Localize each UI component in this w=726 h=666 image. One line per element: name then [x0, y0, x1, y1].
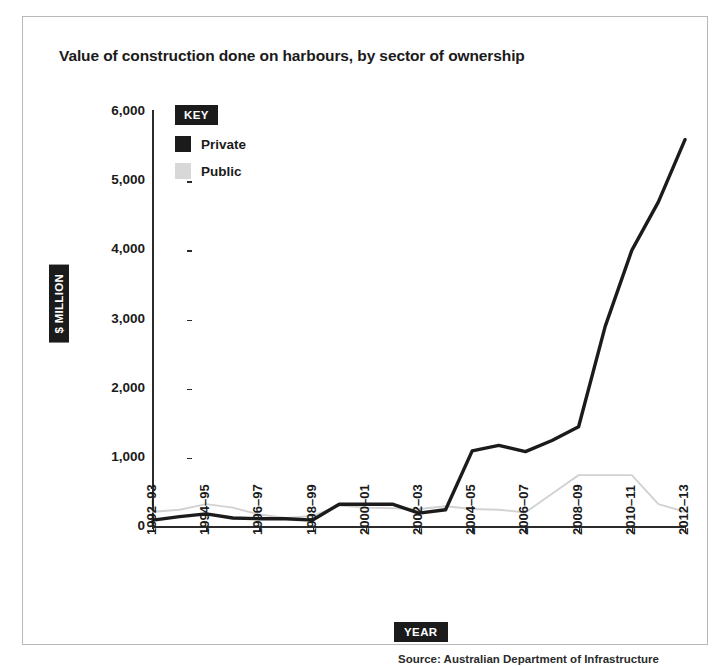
x-tick-label: 2008–09 [570, 484, 585, 535]
x-tick-label: 1998–99 [304, 484, 319, 535]
x-tick-label: 2010–11 [623, 485, 638, 535]
x-tick-label: 1994–95 [197, 484, 212, 535]
legend-item-public: Public [175, 163, 305, 179]
source-note: Source: Australian Department of Infrast… [398, 653, 659, 666]
legend-item-private: Private [175, 136, 305, 152]
x-tick-label: 2006–07 [516, 484, 531, 535]
y-tick-label: 6,000 [111, 103, 145, 118]
y-tick-label: 4,000 [111, 241, 145, 256]
x-tick-label: 1992–93 [144, 484, 159, 535]
chart-figure-frame: Value of construction done on harbours, … [22, 16, 708, 645]
y-tick-label: 2,000 [111, 380, 145, 395]
legend-swatch-public [175, 163, 191, 179]
x-tick-label: 2004–05 [463, 484, 478, 535]
series-line-private [153, 140, 685, 520]
legend-swatch-private [175, 136, 191, 152]
x-tick-label: 2002–03 [410, 484, 425, 535]
y-tick-label: 1,000 [111, 449, 145, 464]
y-axis-tick-labels: 01,0002,0003,0004,0005,0006,000 [63, 17, 145, 666]
y-tick-label: 3,000 [111, 311, 145, 326]
x-tick-label: 1996–97 [250, 484, 265, 535]
x-tick-label: 2012–13 [676, 484, 691, 535]
chart-legend: KEY Private Public [175, 105, 305, 179]
y-tick-label: 5,000 [111, 172, 145, 187]
x-tick-label: 2000–01 [357, 484, 372, 535]
legend-label-private: Private [201, 137, 246, 152]
legend-label-public: Public [201, 164, 242, 179]
x-axis-title: YEAR [394, 622, 448, 642]
legend-title: KEY [175, 105, 218, 125]
